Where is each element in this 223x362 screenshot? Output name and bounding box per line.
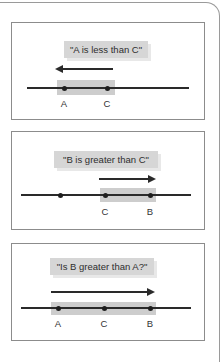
point-label-a: A — [52, 318, 64, 329]
caption-box: "Is B greater than A?" — [50, 258, 154, 275]
caption-text: "Is B greater than A?" — [57, 261, 148, 272]
point-c — [102, 306, 107, 311]
point-unlabeled — [58, 193, 63, 198]
point-label-c: C — [101, 98, 113, 109]
panel-b-greater-than-c: "B is greater than C" C B — [11, 131, 205, 230]
point-a — [62, 86, 67, 91]
point-b — [148, 193, 153, 198]
point-c — [103, 193, 108, 198]
point-label-b: B — [144, 318, 156, 329]
panel-a-less-than-c: "A is less than C" A C — [11, 22, 205, 120]
caption-box: "B is greater than C" — [54, 151, 158, 168]
arrow-right-icon — [51, 288, 155, 296]
point-c — [105, 86, 110, 91]
caption-text: "A is less than C" — [70, 44, 142, 55]
caption-text: "B is greater than C" — [63, 154, 149, 165]
arrow-left-icon — [55, 65, 113, 73]
arrow-right-icon — [99, 175, 156, 183]
point-label-c: C — [98, 318, 110, 329]
point-label-c: C — [99, 206, 111, 217]
point-label-b: B — [144, 206, 156, 217]
caption-box: "A is less than C" — [64, 41, 148, 58]
point-b — [148, 306, 153, 311]
point-label-a: A — [58, 98, 70, 109]
point-a — [56, 306, 61, 311]
panel-is-b-greater-than-a: "Is B greater than A?" A C B — [11, 243, 205, 341]
